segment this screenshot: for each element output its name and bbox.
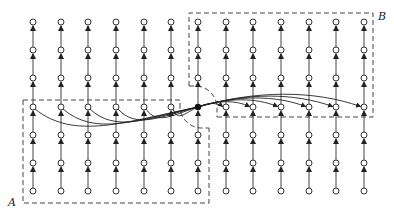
grid-node bbox=[223, 19, 229, 25]
grid-node bbox=[278, 75, 284, 81]
grid-node bbox=[141, 188, 147, 194]
grid-node bbox=[361, 104, 367, 110]
region-b-label: B bbox=[377, 10, 386, 23]
grid-node bbox=[141, 160, 147, 166]
grid-node bbox=[250, 188, 256, 194]
grid-node bbox=[141, 104, 147, 110]
grid-node bbox=[141, 132, 147, 138]
grid-node bbox=[361, 75, 367, 81]
grid-node bbox=[195, 132, 201, 138]
grid-node bbox=[168, 104, 174, 110]
grid-node bbox=[58, 47, 64, 53]
grid-node bbox=[58, 104, 64, 110]
grid-node bbox=[30, 19, 36, 25]
grid-node bbox=[113, 75, 119, 81]
grid-node bbox=[195, 19, 201, 25]
grid-node bbox=[168, 47, 174, 53]
grid-node bbox=[306, 47, 312, 53]
grid-node bbox=[333, 160, 339, 166]
grid-node bbox=[306, 104, 312, 110]
grid-node bbox=[333, 188, 339, 194]
grid-node bbox=[58, 75, 64, 81]
grid-node bbox=[30, 188, 36, 194]
grid-node bbox=[30, 47, 36, 53]
grid-node bbox=[250, 104, 256, 110]
grid-node bbox=[30, 132, 36, 138]
grid-node bbox=[85, 104, 91, 110]
grid-node bbox=[306, 132, 312, 138]
grid-node bbox=[361, 19, 367, 25]
grid-node bbox=[361, 160, 367, 166]
grid-node bbox=[85, 19, 91, 25]
grid-node bbox=[113, 132, 119, 138]
grid-node bbox=[58, 160, 64, 166]
grid-node bbox=[85, 132, 91, 138]
grid-node bbox=[278, 47, 284, 53]
grid-node bbox=[85, 47, 91, 53]
grid-node bbox=[58, 19, 64, 25]
grid-node bbox=[85, 160, 91, 166]
grid-node bbox=[58, 188, 64, 194]
grid-node bbox=[141, 19, 147, 25]
grid-node bbox=[278, 188, 284, 194]
grid-node bbox=[250, 47, 256, 53]
grid-node bbox=[223, 188, 229, 194]
grid-node bbox=[278, 160, 284, 166]
grid-node bbox=[141, 47, 147, 53]
grid-node bbox=[278, 19, 284, 25]
grid-node bbox=[85, 75, 91, 81]
grid-node bbox=[85, 188, 91, 194]
grid-node bbox=[223, 104, 229, 110]
grid-node bbox=[250, 75, 256, 81]
grid-node bbox=[113, 160, 119, 166]
grid-node bbox=[168, 132, 174, 138]
grid-node bbox=[168, 19, 174, 25]
grid-node bbox=[250, 19, 256, 25]
grid-node bbox=[361, 132, 367, 138]
hub-node bbox=[195, 104, 201, 110]
grid-node bbox=[223, 160, 229, 166]
grid-node bbox=[306, 188, 312, 194]
grid-node bbox=[168, 188, 174, 194]
grid-node bbox=[333, 47, 339, 53]
grid-node bbox=[113, 188, 119, 194]
grid-node bbox=[141, 75, 147, 81]
grid-node bbox=[30, 75, 36, 81]
grid-node bbox=[306, 75, 312, 81]
grid-node bbox=[195, 75, 201, 81]
grid-node bbox=[306, 19, 312, 25]
grid-node bbox=[168, 160, 174, 166]
grid-node bbox=[223, 132, 229, 138]
region-a-label: A bbox=[7, 196, 16, 209]
grid-node bbox=[195, 47, 201, 53]
grid-node bbox=[223, 75, 229, 81]
grid-node bbox=[361, 188, 367, 194]
grid-node bbox=[306, 160, 312, 166]
grid-node bbox=[30, 104, 36, 110]
grid-node bbox=[333, 19, 339, 25]
grid-node bbox=[250, 160, 256, 166]
grid-node bbox=[195, 160, 201, 166]
grid-node bbox=[278, 132, 284, 138]
flow-diagram: A B bbox=[0, 0, 394, 212]
grid-node bbox=[333, 132, 339, 138]
grid-node bbox=[113, 19, 119, 25]
grid-node bbox=[250, 132, 256, 138]
grid-node bbox=[195, 188, 201, 194]
grid-node bbox=[278, 104, 284, 110]
grid-node bbox=[223, 47, 229, 53]
grid-node bbox=[361, 47, 367, 53]
grid-node bbox=[333, 104, 339, 110]
grid-node bbox=[168, 75, 174, 81]
grid-node bbox=[58, 132, 64, 138]
grid-node bbox=[333, 75, 339, 81]
grid-node bbox=[113, 47, 119, 53]
grid-node bbox=[113, 104, 119, 110]
grid-node bbox=[30, 160, 36, 166]
